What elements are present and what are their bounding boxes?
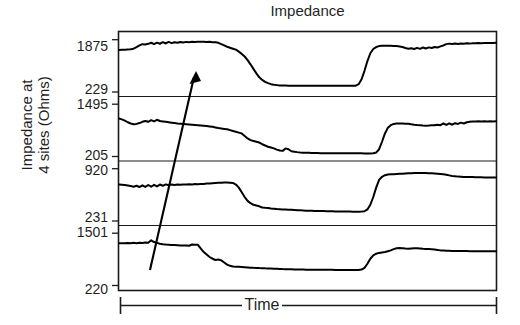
impedance-trace-panel-4 — [119, 240, 496, 270]
arrow-head-icon — [190, 71, 202, 84]
impedance-trace-panel-1 — [119, 42, 496, 86]
impedance-trace-panel-3 — [119, 173, 496, 212]
impedance-figure: Impedance Impedance at 4 sites (Ohms) 18… — [0, 0, 520, 325]
trend-arrow-annotation — [150, 71, 201, 270]
arrow-shaft — [150, 77, 194, 270]
impedance-trace-panel-2 — [119, 119, 496, 154]
x-axis-label: Time — [0, 296, 520, 314]
plot-area — [0, 0, 520, 325]
